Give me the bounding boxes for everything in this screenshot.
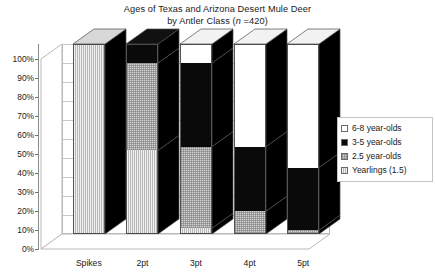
bar-segment[interactable] xyxy=(126,63,158,150)
chart-container: Ages of Texas and Arizona Desert Mule De… xyxy=(0,0,435,279)
bar-segment[interactable] xyxy=(180,228,212,234)
bar-front-faces xyxy=(73,44,105,234)
legend-item-label: 3-5 year-olds xyxy=(352,138,402,147)
x-axis-tick-label: 2pt xyxy=(112,259,172,268)
y-axis-tick-label: 0% xyxy=(22,245,34,253)
legend-item-label: 2.5 year-olds xyxy=(352,152,401,161)
bar-segment[interactable] xyxy=(234,44,266,147)
x-axis: Spikes2pt3pt4pt5pt xyxy=(41,253,351,273)
bar-segment[interactable] xyxy=(287,44,319,168)
bar-segment[interactable] xyxy=(287,168,319,231)
bar-segment[interactable] xyxy=(180,63,212,147)
bar-group[interactable] xyxy=(73,44,105,234)
chart-title: Ages of Texas and Arizona Desert Mule De… xyxy=(0,3,435,28)
legend-item[interactable]: 6-8 year-olds xyxy=(341,121,430,135)
legend-item-label: 6-8 year-olds xyxy=(352,124,402,133)
legend-swatch-icon xyxy=(341,139,348,146)
y-axis: 0%10%20%30%40%50%60%70%80%90%100% xyxy=(0,44,38,249)
y-axis-tick-label: 20% xyxy=(17,207,34,215)
bar-front-faces xyxy=(287,44,319,234)
y-axis-line xyxy=(38,44,39,250)
bar-front-faces xyxy=(180,44,212,234)
bar-segment[interactable] xyxy=(126,44,158,63)
legend-swatch-icon xyxy=(341,167,348,174)
x-axis-tick-label: Spikes xyxy=(59,259,119,268)
legend-item[interactable]: 2.5 year-olds xyxy=(341,149,430,163)
chart-title-line1: Ages of Texas and Arizona Desert Mule De… xyxy=(0,3,435,15)
chart-subtitle-suffix: =420) xyxy=(241,16,268,26)
bar-segment[interactable] xyxy=(73,44,105,234)
y-axis-tick-label: 90% xyxy=(17,74,34,82)
y-axis-tick-label: 50% xyxy=(17,150,34,158)
x-axis-tick-label: 4pt xyxy=(220,259,280,268)
chart-subtitle-prefix: by Antler Class ( xyxy=(167,16,236,26)
bar-group[interactable] xyxy=(180,44,212,234)
legend-item[interactable]: Yearlings (1.5) xyxy=(341,164,430,178)
bar-segment-side xyxy=(105,29,126,234)
x-axis-tick-label: 5pt xyxy=(273,259,333,268)
bar-segment[interactable] xyxy=(180,147,212,229)
bar-segment[interactable] xyxy=(234,211,266,234)
bar-group[interactable] xyxy=(234,44,266,234)
y-axis-tick-label: 10% xyxy=(17,226,34,234)
bar-group[interactable] xyxy=(287,44,319,234)
bars-layer xyxy=(41,44,330,249)
y-axis-tick-label: 70% xyxy=(17,112,34,120)
bar-front-faces xyxy=(234,44,266,234)
bar-group[interactable] xyxy=(126,44,158,234)
x-axis-tick-label: 3pt xyxy=(166,259,226,268)
y-axis-tick-label: 80% xyxy=(17,93,34,101)
bar-segment[interactable] xyxy=(180,44,212,63)
bar-segment-side xyxy=(266,29,287,147)
legend-swatch-icon xyxy=(341,153,348,160)
y-axis-tick-label: 40% xyxy=(17,169,34,177)
bar-segment-side xyxy=(212,48,233,147)
bar-segment[interactable] xyxy=(234,147,266,212)
legend-item[interactable]: 3-5 year-olds xyxy=(341,135,430,149)
bar-segment-side xyxy=(158,48,179,150)
bar-segment-side xyxy=(158,135,179,234)
bar-segment-side xyxy=(212,132,233,229)
bar-front-faces xyxy=(126,44,158,234)
legend-item-label: Yearlings (1.5) xyxy=(352,166,407,175)
y-axis-tick-label: 60% xyxy=(17,131,34,139)
y-axis-tick-label: 100% xyxy=(13,55,34,63)
y-axis-tick-label: 30% xyxy=(17,188,34,196)
bar-segment[interactable] xyxy=(126,150,158,234)
bar-segment[interactable] xyxy=(287,230,319,234)
chart-subtitle: by Antler Class (n =420) xyxy=(0,15,435,27)
chart-legend: 6-8 year-olds3-5 year-olds2.5 year-oldsY… xyxy=(337,117,433,182)
legend-swatch-icon xyxy=(341,125,348,132)
